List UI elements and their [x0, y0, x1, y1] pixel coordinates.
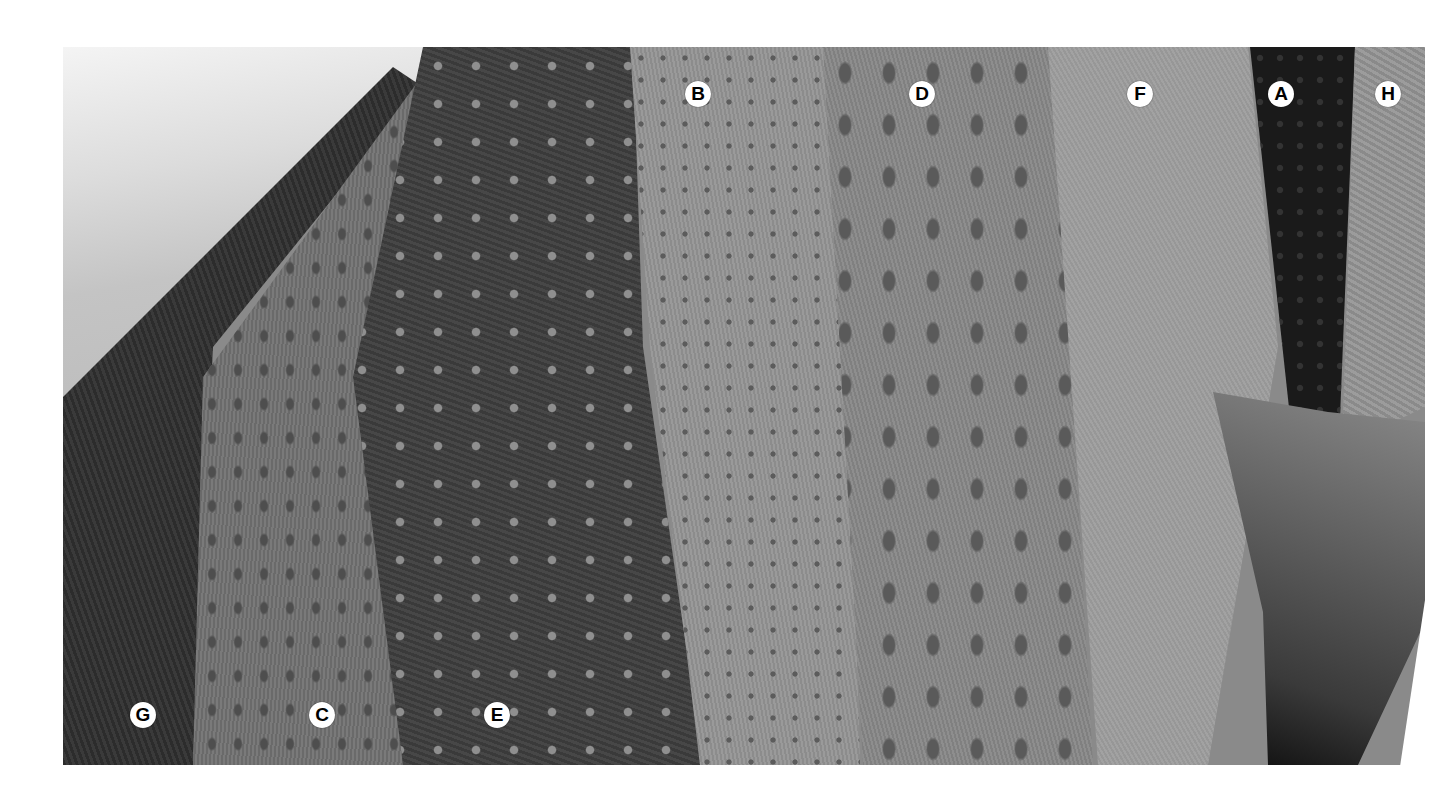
- label-e: E: [484, 702, 510, 728]
- label-g: G: [130, 702, 156, 728]
- label-b: B: [685, 81, 711, 107]
- fabric-fold: [1208, 392, 1425, 765]
- label-a: A: [1268, 81, 1294, 107]
- label-f: F: [1127, 81, 1153, 107]
- label-h: H: [1375, 81, 1401, 107]
- fabric-photo: [63, 47, 1425, 765]
- label-d: D: [909, 81, 935, 107]
- label-c: C: [309, 702, 335, 728]
